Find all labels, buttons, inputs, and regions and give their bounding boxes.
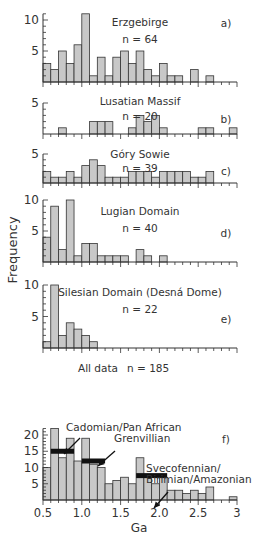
histogram-bar	[51, 429, 59, 501]
age-range-bar	[51, 449, 74, 454]
panel-title: All data	[78, 362, 118, 374]
panel-letter: d)	[221, 227, 232, 239]
x-tick-label: 2.5	[189, 506, 207, 520]
histogram-bar	[97, 256, 105, 262]
histogram-bar	[74, 256, 82, 262]
histogram-bar	[90, 160, 98, 183]
histogram-bar	[66, 200, 74, 262]
histogram-bar	[113, 177, 121, 183]
histogram-bar	[159, 63, 167, 82]
histogram-bar	[59, 51, 67, 82]
histogram-bar	[66, 171, 74, 183]
histogram-bar	[82, 166, 90, 183]
y-tick-label: 10	[24, 278, 39, 292]
y-tick-label: 20	[24, 428, 39, 442]
histogram-bar	[136, 250, 144, 262]
histogram-bar	[229, 128, 237, 134]
panel-title: Lusatian Massif	[100, 95, 181, 107]
panel-letter: c)	[221, 165, 231, 177]
y-axis-label: Frequency	[5, 216, 20, 283]
histogram-bar	[90, 122, 98, 134]
histogram-bar	[43, 342, 51, 348]
histogram-bar	[90, 342, 98, 348]
histogram-bar	[121, 177, 129, 183]
histogram-bar	[113, 481, 121, 501]
histogram-bar	[190, 490, 198, 500]
histogram-bar	[198, 128, 206, 134]
histogram-bar	[82, 243, 90, 262]
histogram-bar	[190, 70, 198, 82]
histogram-bar	[175, 76, 183, 82]
x-tick-label: 2.0	[150, 506, 168, 520]
panel-title: Erzgebirge	[112, 16, 168, 28]
histogram-bar	[128, 484, 136, 500]
panel-c: 5Góry Sowien = 39c)	[31, 147, 237, 188]
histogram-bar	[159, 128, 167, 134]
histogram-bar	[66, 63, 74, 82]
x-tick-label: 0.5	[34, 506, 52, 520]
histogram-figure: 510Erzgebirgen = 64a)5Lusatian Massifn =…	[0, 0, 254, 538]
annotation-label: Birimian/Amazonian	[146, 473, 252, 485]
histogram-bar	[105, 122, 113, 134]
histogram-bar	[206, 171, 214, 183]
histogram-bar	[74, 45, 82, 82]
histogram-bar	[152, 76, 160, 82]
y-tick-label: 10	[24, 461, 39, 475]
histogram-bar	[97, 166, 105, 183]
histogram-bar	[144, 122, 152, 134]
histogram-bar	[74, 177, 82, 183]
y-tick-label: 5	[31, 310, 39, 324]
panel-letter: b)	[221, 113, 232, 125]
x-tick-label: 1.0	[73, 506, 91, 520]
histogram-bar	[82, 438, 90, 500]
panel-title: Lugian Domain	[100, 205, 179, 217]
histogram-bar	[90, 243, 98, 262]
histogram-panels: 510Erzgebirgen = 64a)5Lusatian Massifn =…	[24, 13, 252, 520]
histogram-bar	[59, 458, 67, 500]
histogram-bar	[97, 122, 105, 134]
panel-f: 5101520All datan = 185f)0.51.01.52.02.53…	[24, 362, 252, 520]
histogram-bar	[175, 490, 183, 500]
panel-n-label: n = 20	[122, 110, 158, 122]
histogram-bar	[105, 76, 113, 82]
panel-letter: a)	[221, 17, 232, 29]
histogram-bar	[183, 494, 191, 501]
x-axis-label: Ga	[131, 521, 148, 535]
histogram-bar	[113, 256, 121, 262]
panel-a: 510Erzgebirgen = 64a)	[24, 13, 237, 87]
histogram-bar	[66, 323, 74, 348]
panel-n-label: n = 185	[127, 362, 169, 374]
panel-d: 510Lugian Domainn = 40d)	[24, 193, 237, 267]
histogram-bar	[51, 177, 59, 183]
histogram-bar	[121, 477, 129, 500]
histogram-bar	[167, 76, 175, 82]
panel-n-label: n = 22	[122, 303, 158, 315]
histogram-bar	[167, 171, 175, 183]
histogram-bar	[159, 256, 167, 262]
annotation-label: Grenvillian	[114, 432, 170, 444]
y-tick-label: 10	[24, 193, 39, 207]
y-tick-label: 5	[31, 477, 39, 491]
histogram-bar	[190, 177, 198, 183]
histogram-bar	[152, 484, 160, 500]
y-tick-label: 5	[31, 44, 39, 58]
histogram-bar	[59, 128, 67, 134]
y-tick-label: 5	[31, 96, 39, 110]
histogram-bar	[121, 256, 129, 262]
histogram-bar	[144, 256, 152, 262]
panel-letter: e)	[221, 313, 232, 325]
histogram-bar	[167, 490, 175, 500]
histogram-bar	[105, 256, 113, 262]
panel-n-label: n = 64	[122, 33, 158, 45]
panel-letter: f)	[222, 433, 230, 445]
histogram-bar	[128, 128, 136, 134]
histogram-bar	[97, 57, 105, 82]
histogram-bar	[206, 76, 214, 82]
histogram-bar	[105, 484, 113, 500]
histogram-bar	[183, 171, 191, 183]
histogram-bar	[159, 171, 167, 183]
histogram-bar	[82, 335, 90, 348]
histogram-bar	[121, 51, 129, 82]
histogram-bar	[198, 177, 206, 183]
histogram-bar	[97, 468, 105, 501]
